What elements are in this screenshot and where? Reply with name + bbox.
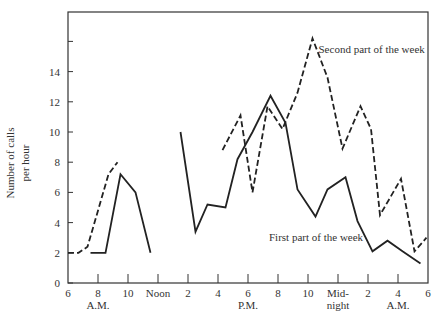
y-axis: 02468101214 (49, 41, 73, 289)
second-part-line (223, 38, 427, 251)
x-tick-label: 4 (395, 287, 401, 299)
x-tick-label: 10 (123, 287, 135, 299)
x-tick-label: Mid- (327, 287, 349, 299)
series-lines (68, 38, 427, 263)
x-tick-label: 6 (245, 287, 251, 299)
y-axis-label-line: per hour (19, 144, 31, 181)
first-part-line (91, 174, 151, 253)
y-axis-label-line: Number of calls (4, 128, 16, 199)
y-tick-label: 14 (49, 66, 61, 78)
y-tick-label: 4 (55, 217, 61, 229)
x-tick-label: 2 (365, 287, 371, 299)
y-tick-label: 2 (55, 247, 61, 259)
x-sublabel: night (327, 299, 350, 311)
second-part-line (68, 162, 118, 253)
y-tick-label: 6 (55, 186, 61, 198)
annotations: Second part of the weekFirst part of the… (269, 43, 425, 242)
y-tick-label: 8 (55, 156, 61, 168)
y-tick-label: 10 (49, 126, 61, 138)
x-tick-label: 6 (425, 287, 431, 299)
x-tick-label: 4 (215, 287, 221, 299)
x-sublabel: A.M. (86, 299, 109, 311)
x-tick-label: 6 (65, 287, 71, 299)
x-sublabel: A.M. (386, 299, 409, 311)
line-chart: 02468101214 6810Noon246810Mid-246A.M.P.M… (0, 0, 434, 320)
series-annotation: Second part of the week (319, 43, 426, 55)
x-tick-label: Noon (146, 287, 171, 299)
x-tick-label: 2 (185, 287, 191, 299)
x-tick-label: 8 (95, 287, 101, 299)
y-tick-label: 12 (49, 96, 60, 108)
x-tick-label: 10 (303, 287, 315, 299)
x-tick-label: 8 (275, 287, 281, 299)
x-axis: 6810Noon246810Mid-246A.M.P.M.nightA.M. (65, 274, 431, 311)
series-annotation: First part of the week (269, 231, 364, 243)
x-sublabel: P.M. (238, 299, 258, 311)
y-tick-label: 0 (55, 277, 61, 289)
y-axis-label: Number of callsper hour (4, 128, 31, 199)
